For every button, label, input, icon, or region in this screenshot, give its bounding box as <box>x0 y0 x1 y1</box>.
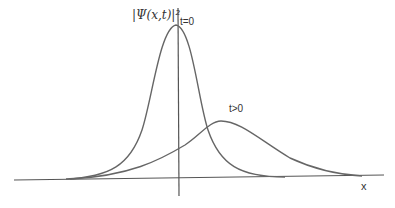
curve-t-positive <box>70 121 362 179</box>
y-axis <box>178 8 179 196</box>
wave-packet-diagram: |Ψ(x,t)|² t=0 t>0 x <box>0 0 395 208</box>
curve-label-t-positive: t>0 <box>229 103 243 114</box>
x-axis-label: x <box>361 180 367 192</box>
y-axis-label: |Ψ(x,t)|² <box>132 8 180 22</box>
curve-t0 <box>66 25 285 179</box>
diagram-canvas <box>0 0 395 208</box>
curve-label-t0: t=0 <box>180 16 194 27</box>
